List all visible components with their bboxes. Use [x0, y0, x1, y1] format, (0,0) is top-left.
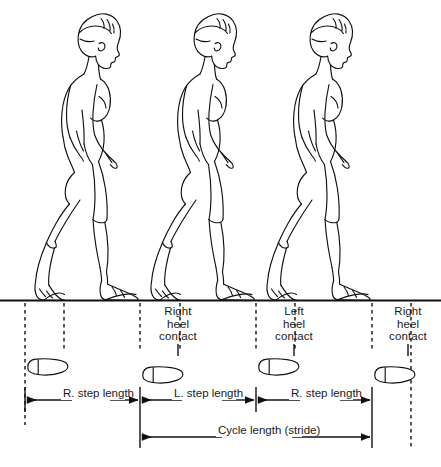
label-line-3: contact — [148, 330, 208, 343]
label-r-step-length-2: R. step length — [289, 387, 353, 400]
label-line-3: contact — [378, 330, 438, 343]
footprints — [28, 359, 415, 383]
dim-line-2: length — [212, 387, 243, 399]
dim-line-1: L. step — [174, 387, 209, 399]
page-footnote — [0, 456, 441, 466]
dim-line-1: R. step — [291, 387, 327, 399]
event-ticks — [178, 344, 408, 356]
label-l-step-length: L. step length — [172, 387, 236, 400]
label-r-step-length-1: R. step length — [61, 387, 125, 400]
dim-line-1: Cycle length — [218, 424, 281, 436]
label-right-heel-contact-2: Right heel contact — [378, 305, 438, 343]
label-line-1: Left — [264, 305, 324, 318]
gait-cycle-figure: Right heel contact Left heel contact Rig… — [0, 0, 441, 467]
footprint-right-2 — [375, 367, 415, 383]
label-line-2: heel — [378, 318, 438, 331]
dim-line-2: length — [103, 387, 134, 399]
label-right-heel-contact-1: Right heel contact — [148, 305, 208, 343]
label-line-1: Right — [148, 305, 208, 318]
label-line-3: contact — [264, 330, 324, 343]
footprint-left-1 — [28, 359, 68, 375]
label-line-1: Right — [378, 305, 438, 318]
label-line-2: heel — [148, 318, 208, 331]
footprint-right-1 — [143, 367, 183, 383]
footprint-left-2 — [259, 359, 299, 375]
dim-line-2: (stride) — [285, 424, 321, 436]
label-line-2: heel — [264, 318, 324, 331]
label-cycle-length: Cycle length (stride) — [216, 424, 302, 437]
dim-line-2: length — [331, 387, 362, 399]
label-left-heel-contact: Left heel contact — [264, 305, 324, 343]
dim-line-1: R. step — [63, 387, 99, 399]
